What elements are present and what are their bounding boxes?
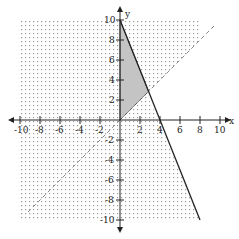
x-tick-label: 2: [137, 125, 143, 135]
y-tick-label: -6: [105, 175, 114, 185]
y-tick-label: 6: [109, 55, 115, 65]
arrow-down-icon: [117, 227, 123, 233]
x-tick-label: 8: [197, 125, 203, 135]
y-tick-label: 8: [109, 35, 115, 45]
x-tick-label: 6: [177, 125, 183, 135]
x-tick-label: -10: [14, 125, 29, 135]
x-tick-label: -4: [75, 125, 84, 135]
y-tick-label: -2: [105, 135, 114, 145]
y-tick-label: 10: [104, 15, 116, 25]
y-tick-label: -4: [105, 155, 114, 165]
y-tick-label: 2: [109, 95, 115, 105]
x-tick-label: 10: [214, 125, 226, 135]
x-axis-label: x: [229, 116, 234, 126]
y-tick-label: 4: [109, 75, 115, 85]
arrow-up-icon: [117, 6, 123, 12]
x-tick-label: -8: [35, 125, 44, 135]
coordinate-graph: -10 -8 -6 -4 -2 2 4 6 8 10 x 10 8 6 4 2 …: [0, 0, 239, 239]
y-axis-label: y: [124, 9, 131, 19]
arrow-left-icon: [8, 117, 14, 123]
y-tick-label: -10: [100, 215, 115, 225]
x-tick-label: 4: [157, 125, 163, 135]
x-tick-label: -6: [55, 125, 64, 135]
x-tick-label: -2: [95, 125, 104, 135]
y-tick-label: -8: [105, 195, 114, 205]
